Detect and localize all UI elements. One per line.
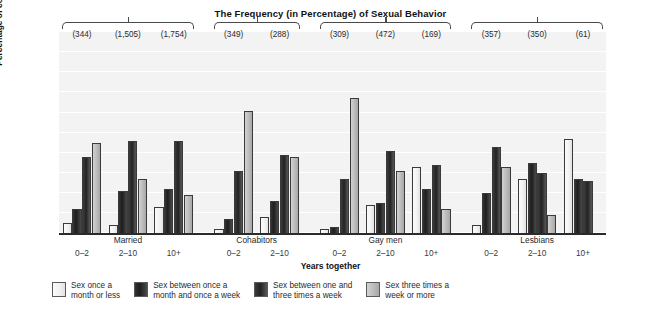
group-label: Cohabitors	[236, 235, 277, 245]
bar	[234, 171, 243, 233]
group-bracket	[320, 22, 452, 29]
legend-label: Sex once a month or less	[71, 281, 120, 300]
bar	[72, 209, 81, 233]
bar	[441, 209, 450, 233]
legend-swatch	[366, 282, 380, 297]
bar	[244, 111, 253, 234]
group-bracket	[62, 22, 194, 29]
x-axis-tick-label: 10+	[167, 248, 181, 258]
bar	[154, 207, 163, 233]
bar	[492, 147, 501, 234]
group-bracket	[471, 22, 603, 29]
bar	[501, 167, 510, 233]
legend-item[interactable]: Sex between one and three times a week	[254, 281, 352, 300]
x-axis-tick-label: 10+	[424, 248, 438, 258]
bar	[376, 203, 385, 233]
bar	[350, 98, 359, 233]
bar	[184, 195, 193, 233]
x-axis-tick-label: 0–2	[75, 248, 89, 258]
bar	[128, 141, 137, 234]
legend-swatch	[52, 282, 66, 297]
x-axis-title: Years together	[0, 261, 661, 271]
bar	[547, 215, 556, 233]
bar	[412, 167, 421, 233]
group-label: Married	[114, 235, 142, 245]
x-axis-tick-label: 0–2	[484, 248, 498, 258]
bar	[422, 189, 431, 233]
legend-label: Sex three times a week or more	[385, 281, 449, 300]
chart-title: The Frequency (in Percentage) of Sexual …	[0, 8, 661, 19]
bar	[109, 225, 118, 233]
bar	[482, 193, 491, 233]
bar	[118, 191, 127, 233]
bar	[518, 179, 527, 233]
group-bracket	[214, 22, 300, 29]
bar	[174, 141, 183, 234]
plot-area	[59, 32, 606, 235]
bar	[472, 225, 481, 233]
bar	[396, 171, 405, 233]
bar	[537, 173, 546, 233]
x-axis-tick-label: 2–10	[528, 248, 546, 258]
y-axis-title: Percentage of couples	[0, 0, 4, 96]
bar	[583, 181, 592, 233]
bar	[63, 223, 72, 233]
group-label: Gay men	[368, 235, 402, 245]
legend: Sex once a month or lessSex between once…	[52, 281, 632, 311]
bar	[340, 179, 349, 233]
x-axis-tick-label: 2–10	[270, 248, 288, 258]
bar	[432, 165, 441, 233]
bar	[164, 189, 173, 233]
legend-label: Sex between one and three times a week	[273, 281, 352, 300]
legend-item[interactable]: Sex between once a month and once a week	[134, 281, 240, 300]
bar	[280, 155, 289, 234]
bar	[270, 201, 279, 233]
x-axis-tick-label: 10+	[576, 248, 590, 258]
x-axis-tick-label: 0–2	[227, 248, 241, 258]
bar	[82, 157, 91, 234]
bar	[574, 179, 583, 233]
bars-layer	[59, 32, 606, 235]
legend-item[interactable]: Sex once a month or less	[52, 281, 120, 300]
legend-swatch	[134, 282, 148, 297]
group-label: Lesbians	[520, 235, 554, 245]
bar	[528, 163, 537, 233]
bar	[564, 139, 573, 234]
bar	[260, 217, 269, 233]
bar	[138, 179, 147, 233]
legend-label: Sex between once a month and once a week	[153, 281, 240, 300]
legend-item[interactable]: Sex three times a week or more	[366, 281, 449, 300]
bar	[290, 157, 299, 234]
legend-swatch	[254, 282, 268, 297]
x-axis-tick-label: 0–2	[333, 248, 347, 258]
x-axis-tick-label: 2–10	[119, 248, 137, 258]
bar	[366, 205, 375, 233]
bar	[92, 143, 101, 234]
bar	[224, 219, 233, 233]
bar	[386, 151, 395, 234]
x-axis-tick-label: 2–10	[376, 248, 394, 258]
